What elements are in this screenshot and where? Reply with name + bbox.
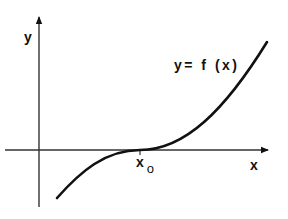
y-axis-label: y xyxy=(24,30,32,44)
x-axis-label: x xyxy=(250,158,258,172)
x0-label-main: x xyxy=(136,154,144,170)
function-diagram xyxy=(0,0,288,219)
function-label: y= f (x) xyxy=(174,58,240,72)
x0-label-subscript: o xyxy=(147,161,154,176)
x0-label: xo xyxy=(136,155,151,169)
